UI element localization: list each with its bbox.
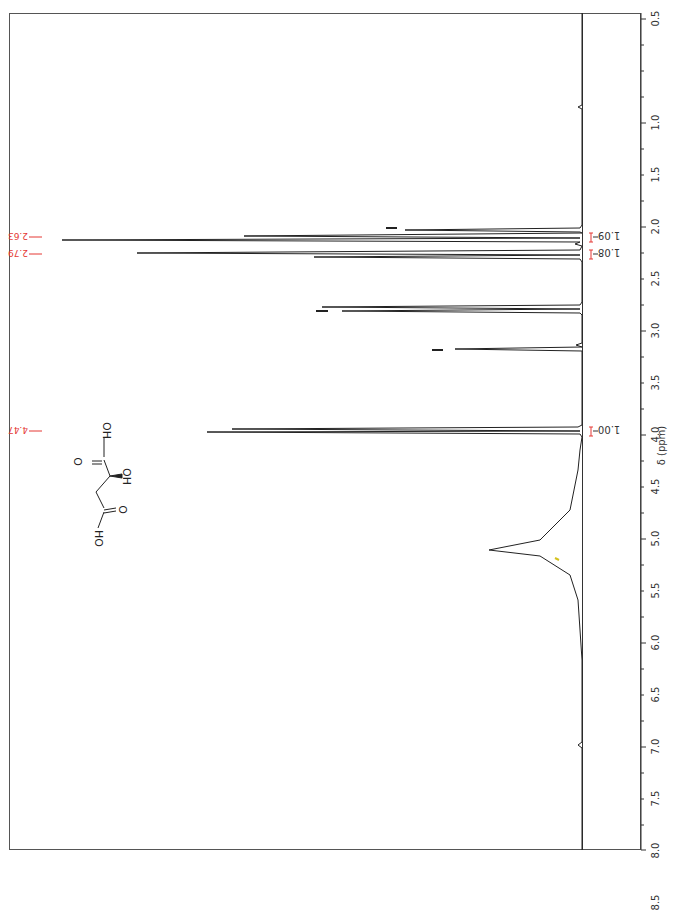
tick-label: 2.0 <box>650 219 661 235</box>
tick-label: 3.0 <box>650 323 661 339</box>
tick-label: 4.5 <box>650 479 661 495</box>
integral-leaders <box>593 237 598 431</box>
tick-label: 5.0 <box>650 531 661 547</box>
atom-label-ho: HO <box>92 530 105 547</box>
peak-label-lines <box>29 237 42 431</box>
tick-label: 0.5 <box>650 11 661 27</box>
tick-label: 6.5 <box>650 687 661 703</box>
tick-label: 7.0 <box>650 739 661 755</box>
malic-acid-structure <box>92 437 122 528</box>
x-axis-title: δ (ppm) <box>656 426 667 466</box>
integral-value: 1.00 <box>598 424 620 435</box>
ppm-axis <box>641 13 646 850</box>
integral-value: 1.09 <box>598 230 620 241</box>
spectrum-trace <box>62 13 582 850</box>
tick-label: 6.0 <box>650 635 661 651</box>
peak-label: 2.79 <box>8 248 28 258</box>
atom-label-oh: OH <box>120 468 133 485</box>
tick-label: 1.5 <box>650 167 661 183</box>
integral-value: 1.08 <box>598 247 620 258</box>
highlight-mark <box>555 558 559 560</box>
atom-label-o: O <box>116 505 129 514</box>
tick-label: 2.5 <box>650 271 661 287</box>
tick-label: 8.5 <box>650 895 661 910</box>
peak-label: 4.47 <box>8 425 28 435</box>
integral-brackets <box>589 233 593 436</box>
tick-label: 1.0 <box>650 115 661 131</box>
tick-label: 8.0 <box>650 843 661 859</box>
tick-label: 5.5 <box>650 583 661 599</box>
atom-label-o: O <box>71 457 84 466</box>
peak-label: 2.63 <box>8 231 28 241</box>
peak-markers <box>316 228 443 350</box>
atom-label-oh: OH <box>100 422 113 439</box>
tick-label: 7.5 <box>650 791 661 807</box>
tick-label: 3.5 <box>650 375 661 391</box>
